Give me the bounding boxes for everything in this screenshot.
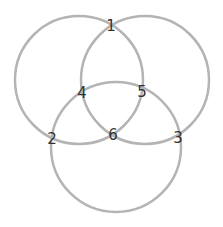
circle-right: [81, 16, 209, 144]
three-circle-diagram: 1 2 3 4 5 6: [0, 0, 223, 227]
point-label-5: 5: [137, 83, 147, 101]
point-label-6: 6: [108, 126, 118, 144]
point-label-3: 3: [173, 129, 183, 147]
point-label-4: 4: [77, 84, 87, 102]
circle-left: [15, 16, 143, 144]
point-label-1: 1: [106, 17, 116, 35]
point-label-2: 2: [47, 130, 57, 148]
circle-bottom: [51, 82, 181, 212]
